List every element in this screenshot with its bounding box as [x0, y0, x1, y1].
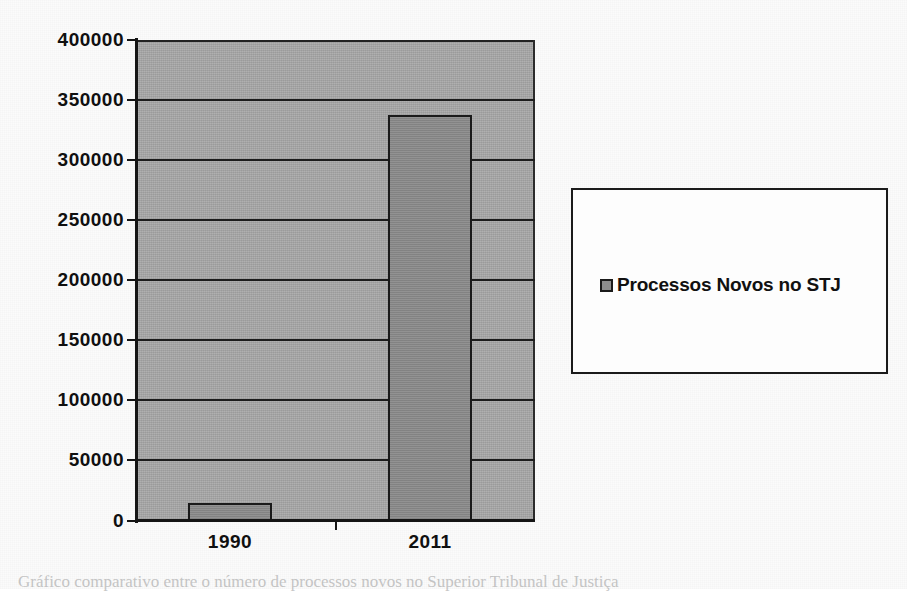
- figure-caption: Gráfico comparativo entre o número de pr…: [18, 572, 898, 592]
- plot-top-border: [137, 40, 535, 42]
- y-axis-tick-200000: 200000: [0, 270, 124, 290]
- bar-2011[interactable]: [388, 115, 472, 521]
- y-axis-tick-label: 250000: [6, 210, 124, 229]
- y-axis-tick-label: 200000: [6, 270, 124, 289]
- gridline-150000: [137, 339, 535, 341]
- chart-legend: Processos Novos no STJ: [571, 188, 888, 374]
- plot-area: [137, 40, 535, 521]
- y-axis-tick-label: 50000: [6, 450, 124, 469]
- legend-item-processos-novos[interactable]: Processos Novos no STJ: [600, 274, 841, 296]
- y-axis-tick-400000: 400000: [0, 30, 124, 50]
- y-axis-tick-50000: 50000: [0, 450, 124, 470]
- y-axis-tick-0: 0: [0, 511, 124, 531]
- x-axis-label-2011: 2011: [370, 531, 490, 553]
- gridline-200000: [137, 279, 535, 281]
- y-axis-tick-label: 100000: [6, 390, 124, 409]
- gridline-300000: [137, 159, 535, 161]
- legend-item-label: Processos Novos no STJ: [617, 274, 841, 296]
- gridline-50000: [137, 459, 535, 461]
- gridline-250000: [137, 219, 535, 221]
- gridline-350000: [137, 99, 535, 101]
- y-axis-tick-label: 150000: [6, 330, 124, 349]
- legend-swatch-icon: [600, 279, 613, 292]
- y-axis-line: [135, 38, 138, 523]
- y-axis-tick-150000: 150000: [0, 330, 124, 350]
- y-axis-tick-label: 350000: [6, 90, 124, 109]
- y-axis-tick-300000: 300000: [0, 150, 124, 170]
- y-axis-tick-label: 0: [6, 511, 124, 530]
- y-axis-tick-250000: 250000: [0, 210, 124, 230]
- x-axis-tick-mark: [335, 521, 337, 530]
- y-axis-tick-label: 300000: [6, 150, 124, 169]
- y-axis-tick-label: 400000: [6, 30, 124, 49]
- gridline-100000: [137, 399, 535, 401]
- y-axis-tick-350000: 350000: [0, 90, 124, 110]
- y-axis-tick-100000: 100000: [0, 390, 124, 410]
- x-axis-label-1990: 1990: [170, 531, 290, 553]
